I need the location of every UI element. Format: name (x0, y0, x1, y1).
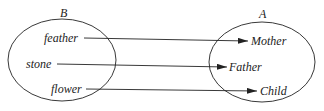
set-a-label: A (259, 8, 266, 20)
set-b-label: B (60, 7, 67, 19)
mapping-diagram: B feather stone flower A Mother Father C… (0, 0, 324, 111)
element-feather: feather (44, 32, 78, 44)
element-mother: Mother (251, 35, 286, 47)
element-flower: flower (51, 83, 82, 95)
element-child: Child (260, 85, 287, 97)
arrow-flower-child (86, 89, 257, 91)
element-stone: stone (26, 58, 51, 70)
element-father: Father (229, 61, 262, 73)
arrow-stone-father (57, 64, 227, 67)
